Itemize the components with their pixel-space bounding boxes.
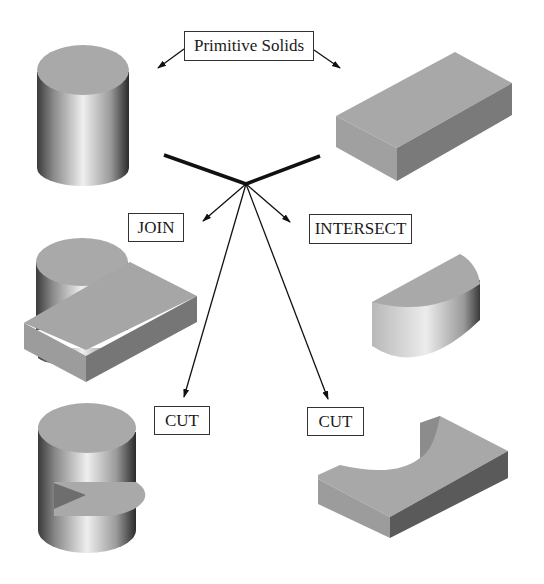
primitive-solids-label: Primitive Solids <box>184 31 314 61</box>
cut-left-label: CUT <box>154 406 210 435</box>
combine-lines <box>164 155 320 184</box>
intersected-solid <box>372 254 480 357</box>
join-label: JOIN <box>128 213 184 242</box>
cut-right-label: CUT <box>307 407 364 436</box>
cut-cylinder <box>38 403 145 553</box>
cylinder-primitive <box>37 45 129 186</box>
block-primitive <box>336 52 512 181</box>
intersect-label: INTERSECT <box>309 214 412 244</box>
joined-solid <box>24 238 197 382</box>
boolean-operations-diagram: Primitive Solids JOIN INTERSECT CUT CUT <box>0 0 544 584</box>
